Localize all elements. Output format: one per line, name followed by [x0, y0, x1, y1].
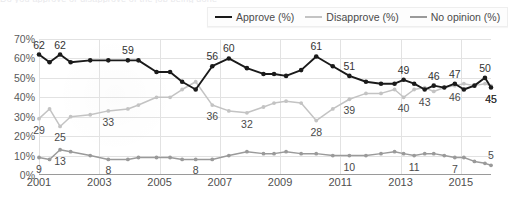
data-point	[180, 88, 184, 92]
data-point	[47, 60, 52, 65]
data-point	[227, 109, 231, 113]
data-point	[431, 83, 436, 88]
data-point	[272, 72, 277, 77]
data-point	[227, 56, 232, 61]
legend-swatch-approve	[215, 16, 232, 18]
data-point	[88, 154, 92, 158]
data-point	[106, 109, 110, 113]
data-point	[154, 70, 159, 75]
data-point	[37, 52, 42, 57]
y-axis-tick-label: 40%	[14, 91, 35, 103]
data-point	[314, 54, 319, 59]
legend-item-no_opinion[interactable]: No opinion (%)	[410, 11, 500, 23]
data-point	[194, 158, 198, 162]
data-point	[137, 103, 141, 107]
data-point	[210, 158, 214, 162]
x-axis-tick-label: 2007	[208, 176, 232, 188]
x-axis-tick-label: 2009	[268, 176, 292, 188]
data-point	[210, 64, 215, 69]
legend-label-no_opinion: No opinion (%)	[431, 11, 500, 23]
data-point	[412, 154, 416, 158]
data-point	[210, 103, 214, 107]
legend-swatch-disapprove	[305, 16, 322, 18]
data-point	[37, 117, 41, 121]
y-axis-labels: 0%10%20%30%40%50%60%70%	[0, 39, 35, 175]
data-point	[299, 68, 304, 73]
series-disapprove	[37, 80, 493, 128]
legend-item-approve[interactable]: Approve (%)	[215, 11, 294, 23]
y-axis-tick-label: 70%	[14, 33, 35, 45]
data-point	[58, 125, 62, 129]
data-point	[299, 101, 303, 105]
data-point	[422, 87, 427, 92]
legend-label-disapprove: Disapprove (%)	[326, 11, 398, 23]
series-no	[37, 148, 493, 167]
data-point	[364, 154, 368, 158]
data-point	[379, 152, 383, 156]
data-point	[194, 80, 198, 84]
data-point	[88, 58, 93, 63]
data-point	[180, 79, 185, 84]
data-point	[401, 78, 406, 83]
data-point	[68, 60, 73, 65]
data-point	[272, 152, 276, 156]
data-point	[412, 81, 417, 86]
x-axis-tick-label: 2005	[147, 176, 171, 188]
data-point	[193, 87, 198, 92]
data-point	[331, 64, 336, 69]
data-point	[402, 95, 406, 99]
data-point	[314, 152, 318, 156]
data-point	[48, 158, 52, 162]
y-axis-tick-label: 60%	[14, 52, 35, 64]
data-point	[432, 152, 436, 156]
y-axis-tick-label: 10%	[14, 150, 35, 162]
data-point	[299, 152, 303, 156]
data-point	[262, 152, 266, 156]
chart-title-cropped: Do you approve or disapprove of the job …	[0, 0, 499, 3]
data-point	[88, 113, 92, 117]
data-point	[489, 163, 493, 167]
data-point	[392, 81, 397, 86]
legend-item-disapprove[interactable]: Disapprove (%)	[305, 11, 398, 23]
data-point	[58, 148, 62, 152]
data-point	[245, 150, 249, 154]
data-point	[483, 82, 487, 86]
data-point	[69, 150, 73, 154]
data-point	[393, 88, 397, 92]
data-point	[402, 152, 406, 156]
data-point	[272, 101, 276, 105]
data-point	[245, 66, 250, 71]
data-point	[168, 95, 172, 99]
data-point	[155, 95, 159, 99]
series-line	[39, 150, 491, 166]
x-axis-tick-label: 2013	[388, 176, 412, 188]
data-point	[168, 70, 173, 75]
data-point	[136, 58, 141, 63]
data-point	[364, 79, 369, 84]
legend-label-approve: Approve (%)	[236, 11, 294, 23]
data-point	[364, 92, 368, 96]
data-point	[284, 74, 289, 79]
chart-legend: Approve (%)Disapprove (%)No opinion (%)	[207, 7, 508, 27]
data-point	[331, 107, 335, 111]
data-point	[180, 158, 184, 162]
data-point	[126, 158, 130, 162]
y-axis-tick-label: 20%	[14, 130, 35, 142]
plot-area: 2925333632283940434645913881011756262595…	[39, 39, 491, 175]
legend-swatch-no_opinion	[410, 16, 427, 18]
x-axis-line	[39, 174, 491, 175]
data-point	[347, 97, 351, 101]
data-point	[262, 105, 266, 109]
data-point	[379, 92, 383, 96]
data-point	[483, 76, 488, 81]
data-point	[106, 158, 110, 162]
data-point	[126, 107, 130, 111]
data-point	[473, 160, 477, 164]
data-point	[423, 152, 427, 156]
data-point	[393, 150, 397, 154]
data-point	[227, 154, 231, 158]
y-axis-tick-label: 50%	[14, 72, 35, 84]
data-point	[442, 85, 447, 90]
data-point	[168, 156, 172, 160]
